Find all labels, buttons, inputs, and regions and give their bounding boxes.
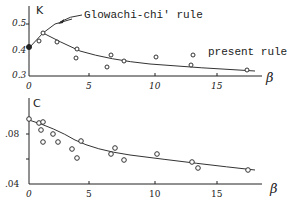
bottom-y-label: C xyxy=(33,97,41,110)
tick: 0.4 xyxy=(12,45,27,55)
bottom-x-label: β xyxy=(269,181,278,196)
tick: 15 xyxy=(211,189,223,199)
top-x-label: β xyxy=(265,70,274,85)
top-plot: K 0.5 0.4 0.3 0 5 10 15 β Glowachi-chi' … xyxy=(12,4,287,91)
tick: 0 xyxy=(26,81,32,91)
bottom-plot: C .08 .04 0 5 10 15 β xyxy=(5,97,278,199)
tick: .04 xyxy=(5,179,20,189)
tick: 10 xyxy=(149,189,161,199)
tick: 15 xyxy=(211,81,223,91)
bottom-fit-curve xyxy=(29,120,255,170)
tick: 0.3 xyxy=(12,70,27,80)
tick: .08 xyxy=(5,129,20,139)
tick: 0.5 xyxy=(12,18,27,28)
tick: 5 xyxy=(86,189,92,199)
annotation-present-rule: present rule xyxy=(208,46,287,58)
figure: K 0.5 0.4 0.3 0 5 10 15 β Glowachi-chi' … xyxy=(0,0,296,207)
annotation-glowachi: Glowachi-chi' rule xyxy=(84,9,203,21)
tick: 5 xyxy=(86,81,92,91)
top-y-label: K xyxy=(36,4,44,17)
tick: 10 xyxy=(149,81,161,91)
glowachi-curve xyxy=(29,19,72,48)
tick: 0 xyxy=(26,189,32,199)
